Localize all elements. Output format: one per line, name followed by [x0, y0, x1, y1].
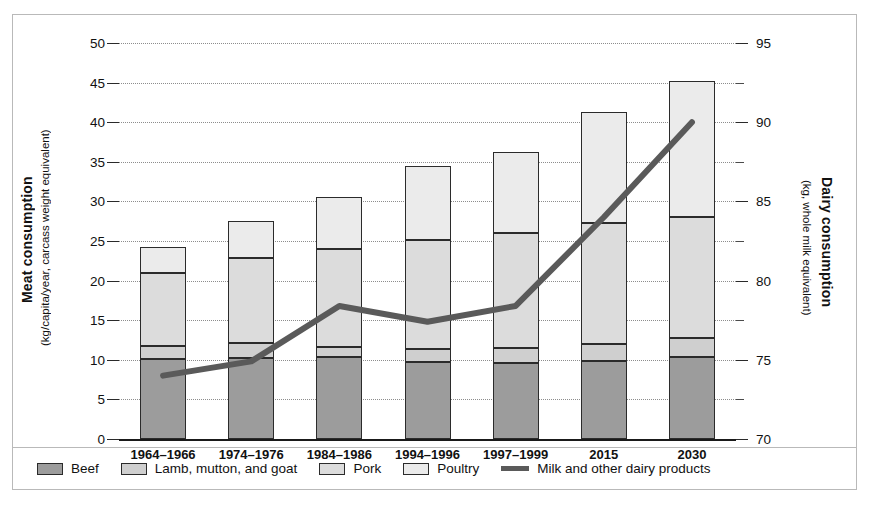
bar-column — [581, 43, 627, 439]
left-tick-label: 0 — [75, 432, 105, 447]
left-tick-label: 35 — [75, 154, 105, 169]
left-tick-mark — [107, 162, 119, 163]
bar-segment-pork — [140, 273, 186, 345]
bar-segment-lamb — [669, 338, 715, 356]
legend-item: Pork — [319, 461, 381, 476]
right-tick-label: 90 — [756, 115, 790, 130]
bar-segment-pork — [405, 240, 451, 349]
legend-item: Beef — [37, 461, 99, 476]
right-tick-mark — [736, 281, 748, 282]
right-tick-mark — [736, 43, 748, 44]
bar-segment-beef — [669, 357, 715, 439]
left-tick-label: 10 — [75, 352, 105, 367]
left-tick-mark — [107, 241, 119, 242]
bar-segment-pork — [581, 223, 627, 344]
bar-segment-poultry — [405, 166, 451, 240]
legend-label: Lamb, mutton, and goat — [155, 461, 298, 476]
bar-segment-lamb — [140, 346, 186, 359]
left-tick-mark — [107, 281, 119, 282]
legend-swatch-icon — [319, 463, 345, 475]
legend-item: Milk and other dairy products — [501, 461, 710, 476]
left-tick-label: 45 — [75, 75, 105, 90]
right-axis-title: Dairy consumption — [819, 135, 835, 350]
gridline — [119, 439, 736, 441]
bar-segment-pork — [316, 249, 362, 347]
chart-legend: BeefLamb, mutton, and goatPorkPoultryMil… — [13, 447, 856, 489]
bar-segment-pork — [669, 217, 715, 338]
bar-segment-poultry — [493, 152, 539, 234]
left-tick-mark — [107, 201, 119, 202]
legend-line-icon — [501, 466, 529, 471]
bar-segment-lamb — [316, 347, 362, 357]
left-tick-label: 25 — [75, 234, 105, 249]
legend-item: Poultry — [403, 461, 479, 476]
bar-segment-beef — [228, 358, 274, 439]
bar-segment-lamb — [493, 348, 539, 363]
bar-column — [405, 43, 451, 439]
bar-segment-pork — [228, 258, 274, 343]
bar-column — [669, 43, 715, 439]
bar-segment-lamb — [405, 349, 451, 362]
bar-segment-poultry — [140, 247, 186, 273]
bar-segment-beef — [316, 357, 362, 439]
bar-segment-pork — [493, 233, 539, 348]
bar-column — [316, 43, 362, 439]
right-tick-mark — [736, 320, 744, 321]
left-axis-subtitle: (kg/capita/year, carcass weight equivale… — [39, 100, 51, 375]
right-tick-label: 95 — [756, 36, 790, 51]
right-tick-mark — [736, 399, 744, 400]
left-tick-mark — [107, 83, 119, 84]
right-tick-mark — [736, 360, 748, 361]
right-tick-label: 85 — [756, 194, 790, 209]
legend-label: Beef — [71, 461, 99, 476]
legend-label: Poultry — [437, 461, 479, 476]
bar-segment-lamb — [228, 343, 274, 358]
left-tick-label: 40 — [75, 115, 105, 130]
right-tick-label: 70 — [756, 432, 790, 447]
chart-figure: Meat consumption (kg/capita/year, carcas… — [12, 14, 857, 490]
bar-segment-poultry — [581, 112, 627, 223]
left-tick-mark — [107, 439, 119, 440]
bar-segment-beef — [140, 359, 186, 439]
left-tick-label: 20 — [75, 273, 105, 288]
bar-segment-poultry — [316, 197, 362, 249]
bar-segment-poultry — [669, 81, 715, 217]
legend-label: Pork — [353, 461, 381, 476]
right-tick-label: 80 — [756, 273, 790, 288]
left-tick-label: 30 — [75, 194, 105, 209]
bar-segment-beef — [493, 363, 539, 439]
right-tick-mark — [736, 439, 748, 440]
right-axis-subtitle: (kg, whole milk equivalent) — [801, 150, 813, 345]
left-tick-label: 5 — [75, 392, 105, 407]
bar-column — [140, 43, 186, 439]
left-tick-mark — [107, 399, 119, 400]
bar-segment-beef — [405, 362, 451, 439]
legend-swatch-icon — [403, 463, 429, 475]
left-tick-mark — [107, 43, 119, 44]
right-tick-mark — [736, 241, 744, 242]
plot-area: 05101520253035404550 707580859095 1964–1… — [119, 43, 736, 439]
bar-column — [493, 43, 539, 439]
left-axis-title: Meat consumption — [19, 135, 35, 345]
right-tick-mark — [736, 162, 744, 163]
left-tick-mark — [107, 320, 119, 321]
bar-segment-lamb — [581, 344, 627, 361]
bar-column — [228, 43, 274, 439]
left-tick-label: 50 — [75, 36, 105, 51]
legend-label: Milk and other dairy products — [537, 461, 710, 476]
left-tick-mark — [107, 122, 119, 123]
right-tick-mark — [736, 122, 748, 123]
right-tick-label: 75 — [756, 352, 790, 367]
bar-segment-beef — [581, 361, 627, 439]
legend-swatch-icon — [37, 463, 63, 475]
right-tick-mark — [736, 201, 748, 202]
bar-segment-poultry — [228, 221, 274, 258]
left-tick-mark — [107, 360, 119, 361]
left-tick-label: 15 — [75, 313, 105, 328]
legend-item: Lamb, mutton, and goat — [121, 461, 298, 476]
right-tick-mark — [736, 83, 744, 84]
legend-swatch-icon — [121, 463, 147, 475]
